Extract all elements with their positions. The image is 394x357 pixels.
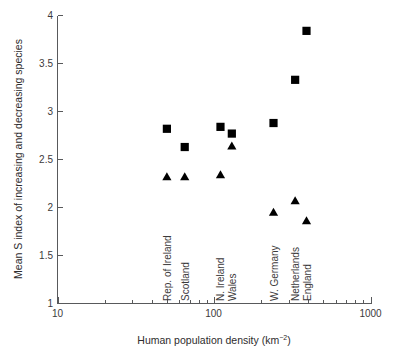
x-tick-label: 100 xyxy=(205,308,222,319)
y-tick-label: 4 xyxy=(47,10,53,21)
category-label: W. Germany xyxy=(269,245,280,301)
y-tick-label: 2.5 xyxy=(39,154,53,165)
marker-square xyxy=(216,123,224,131)
y-tick-label: 3 xyxy=(47,106,53,117)
marker-square xyxy=(291,76,299,84)
y-tick-label: 1.5 xyxy=(39,250,53,261)
marker-square xyxy=(269,119,277,127)
marker-square xyxy=(181,143,189,151)
marker-triangle xyxy=(216,170,225,178)
x-axis-title-exponent: −2 xyxy=(279,334,287,341)
y-tick-label: 3.5 xyxy=(39,58,53,69)
figure-container: 1 1.5 2 2.5 3 3.5 4 Mean S index of incr… xyxy=(0,0,394,357)
y-axis-title: Mean S index of increasing and decreasin… xyxy=(12,39,24,279)
x-axis-tick-labels: 10 100 1000 xyxy=(52,308,382,319)
y-axis-ticks xyxy=(58,16,63,304)
x-axis-title-main: Human population density (km xyxy=(137,334,279,346)
marker-triangle xyxy=(291,196,300,204)
marker-square xyxy=(228,129,236,137)
marker-triangle xyxy=(269,208,278,216)
x-axis-title-close: ) xyxy=(287,334,291,346)
category-label: Rep. of Ireland xyxy=(162,235,173,301)
category-label: England xyxy=(302,264,313,301)
axis-lines xyxy=(58,16,371,304)
x-tick-label: 1000 xyxy=(359,308,382,319)
marker-triangle xyxy=(180,172,189,180)
marker-triangle xyxy=(227,141,236,149)
category-labels: Rep. of IrelandScotlandN. IrelandWalesW.… xyxy=(162,235,313,301)
category-label: Wales xyxy=(227,274,238,301)
x-tick-label: 10 xyxy=(52,308,64,319)
data-markers xyxy=(162,27,311,225)
marker-square xyxy=(163,125,171,133)
category-label: Scotland xyxy=(180,262,191,301)
y-tick-label: 2 xyxy=(47,202,53,213)
category-label: Netherlands xyxy=(290,247,301,301)
marker-triangle xyxy=(162,172,171,180)
y-axis-tick-labels: 1 1.5 2 2.5 3 3.5 4 xyxy=(39,10,53,309)
category-label: N. Ireland xyxy=(215,258,226,301)
scatter-plot: 1 1.5 2 2.5 3 3.5 4 Mean S index of incr… xyxy=(0,0,394,357)
x-axis-title: Human population density (km−2) xyxy=(137,334,290,346)
marker-square xyxy=(302,27,310,35)
marker-triangle xyxy=(302,216,311,224)
